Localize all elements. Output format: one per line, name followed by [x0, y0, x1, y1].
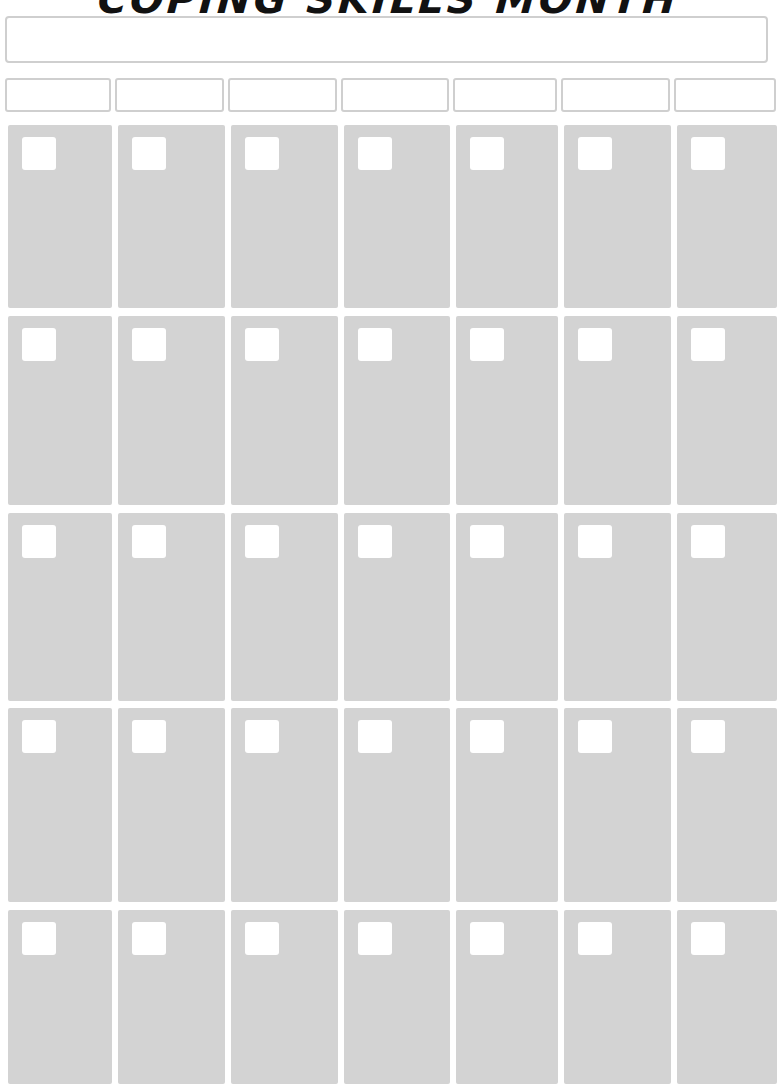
weekday-header-7[interactable] [674, 78, 776, 112]
date-number-box[interactable] [22, 720, 56, 753]
date-number-box[interactable] [470, 922, 504, 955]
date-number-box[interactable] [358, 137, 392, 170]
calendar-day-cell[interactable] [456, 316, 558, 505]
calendar-day-cell[interactable] [344, 708, 450, 902]
weekday-header-1[interactable] [5, 78, 111, 112]
date-number-box[interactable] [245, 137, 279, 170]
date-number-box[interactable] [691, 137, 725, 170]
date-number-box[interactable] [132, 525, 166, 558]
calendar-day-cell[interactable] [344, 513, 450, 701]
date-number-box[interactable] [578, 328, 612, 361]
calendar-day-cell[interactable] [231, 513, 338, 701]
date-number-box[interactable] [22, 922, 56, 955]
weekday-header-4[interactable] [341, 78, 449, 112]
date-number-box[interactable] [470, 720, 504, 753]
date-number-box[interactable] [132, 328, 166, 361]
date-number-box[interactable] [22, 137, 56, 170]
calendar-day-cell[interactable] [677, 513, 777, 701]
calendar-day-cell[interactable] [564, 708, 671, 902]
date-number-box[interactable] [358, 525, 392, 558]
calendar-day-cell[interactable] [344, 910, 450, 1084]
date-number-box[interactable] [132, 922, 166, 955]
calendar-day-cell[interactable] [564, 513, 671, 701]
calendar-day-cell[interactable] [8, 708, 112, 902]
date-number-box[interactable] [245, 922, 279, 955]
calendar-day-cell[interactable] [118, 125, 225, 308]
calendar-day-cell[interactable] [677, 910, 777, 1084]
calendar-day-cell[interactable] [456, 125, 558, 308]
calendar-day-cell[interactable] [564, 125, 671, 308]
calendar-day-cell[interactable] [118, 316, 225, 505]
calendar-day-cell[interactable] [677, 316, 777, 505]
date-number-box[interactable] [578, 922, 612, 955]
calendar-day-cell[interactable] [231, 910, 338, 1084]
calendar-day-cell[interactable] [456, 910, 558, 1084]
date-number-box[interactable] [470, 525, 504, 558]
date-number-box[interactable] [22, 328, 56, 361]
date-number-box[interactable] [245, 328, 279, 361]
date-number-box[interactable] [691, 720, 725, 753]
date-number-box[interactable] [470, 328, 504, 361]
weekday-header-5[interactable] [453, 78, 557, 112]
calendar-day-cell[interactable] [456, 708, 558, 902]
calendar-day-cell[interactable] [344, 316, 450, 505]
calendar-day-cell[interactable] [8, 316, 112, 505]
calendar-day-cell[interactable] [8, 910, 112, 1084]
date-number-box[interactable] [245, 720, 279, 753]
date-number-box[interactable] [470, 137, 504, 170]
date-number-box[interactable] [578, 137, 612, 170]
weekday-header-2[interactable] [115, 78, 224, 112]
date-number-box[interactable] [578, 720, 612, 753]
date-number-box[interactable] [691, 525, 725, 558]
date-number-box[interactable] [358, 328, 392, 361]
calendar-day-cell[interactable] [677, 125, 777, 308]
calendar-day-cell[interactable] [118, 910, 225, 1084]
date-number-box[interactable] [358, 922, 392, 955]
calendar-day-cell[interactable] [8, 513, 112, 701]
month-name-field[interactable] [5, 16, 768, 63]
calendar-day-cell[interactable] [231, 125, 338, 308]
weekday-header-3[interactable] [228, 78, 337, 112]
calendar-day-cell[interactable] [564, 316, 671, 505]
date-number-box[interactable] [691, 922, 725, 955]
calendar-day-cell[interactable] [118, 708, 225, 902]
date-number-box[interactable] [132, 720, 166, 753]
date-number-box[interactable] [245, 525, 279, 558]
calendar-day-cell[interactable] [231, 708, 338, 902]
date-number-box[interactable] [578, 525, 612, 558]
calendar-day-cell[interactable] [118, 513, 225, 701]
calendar-day-cell[interactable] [231, 316, 338, 505]
date-number-box[interactable] [358, 720, 392, 753]
calendar-day-cell[interactable] [8, 125, 112, 308]
calendar-day-cell[interactable] [564, 910, 671, 1084]
calendar-day-cell[interactable] [456, 513, 558, 701]
date-number-box[interactable] [22, 525, 56, 558]
calendar-day-cell[interactable] [344, 125, 450, 308]
calendar-day-cell[interactable] [677, 708, 777, 902]
date-number-box[interactable] [132, 137, 166, 170]
weekday-header-6[interactable] [561, 78, 670, 112]
date-number-box[interactable] [691, 328, 725, 361]
